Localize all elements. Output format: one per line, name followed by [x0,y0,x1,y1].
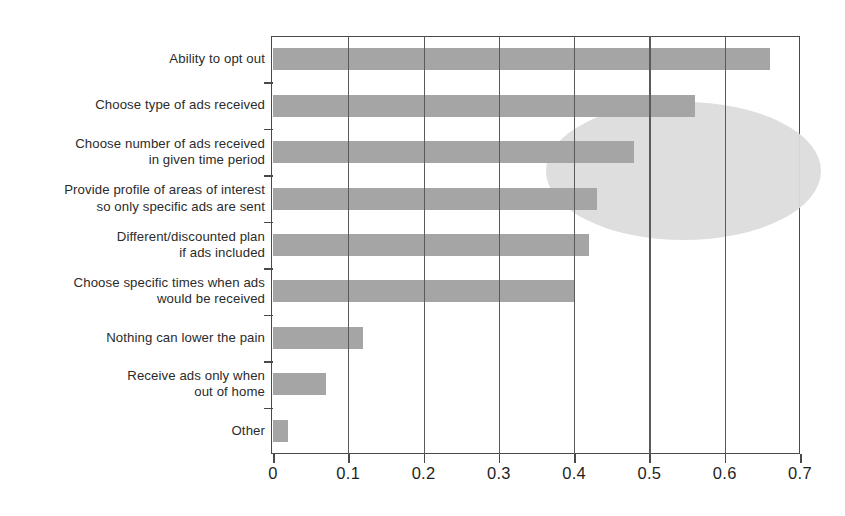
x-axis-tick-label: 0 [243,464,303,483]
category-label: Choose specific times when ads would be … [0,275,265,308]
category-label: Other [0,423,265,440]
y-axis-tick [264,82,273,84]
y-axis-tick [264,361,273,363]
x-axis-tick-label: 0.5 [619,464,679,483]
bar [273,420,288,442]
bar [273,373,326,395]
gridline [424,36,425,454]
x-axis-tick-label: 0.6 [695,464,755,483]
x-axis-tick [499,454,501,463]
category-label: Different/discounted plan if ads include… [0,229,265,262]
category-label: Choose number of ads received in given t… [0,136,265,169]
x-axis-tick-label: 0.3 [469,464,529,483]
x-axis-tick-label: 0.4 [544,464,604,483]
bar [273,141,634,163]
gridline [649,36,650,454]
gridline [574,36,575,454]
x-axis-tick [725,454,727,463]
x-axis-tick [348,454,350,463]
y-axis-tick [264,408,273,410]
y-axis-tick [264,175,273,177]
category-label: Nothing can lower the pain [0,330,265,347]
x-axis-tick [649,454,651,463]
category-label: Choose type of ads received [0,97,265,114]
x-axis-tick-label: 0.2 [394,464,454,483]
x-axis-tick-label: 0.1 [318,464,378,483]
gridline [499,36,500,454]
x-axis-tick [424,454,426,463]
gridline [348,36,349,454]
bar [273,327,363,349]
gridline [725,36,726,454]
bar [273,95,695,117]
x-axis-tick [273,454,275,463]
chart-canvas: Ability to opt outChoose type of ads rec… [0,0,845,516]
bar [273,234,589,256]
bar [273,188,597,210]
category-label: Receive ads only when out of home [0,368,265,401]
category-label: Ability to opt out [0,51,265,68]
x-axis-tick-label: 0.7 [770,464,830,483]
y-axis-tick [264,129,273,131]
category-label: Provide profile of areas of interest so … [0,182,265,215]
y-axis-tick [264,268,273,270]
x-axis-tick [800,454,802,463]
y-axis-tick [264,222,273,224]
x-axis-tick [574,454,576,463]
y-axis-tick [264,315,273,317]
